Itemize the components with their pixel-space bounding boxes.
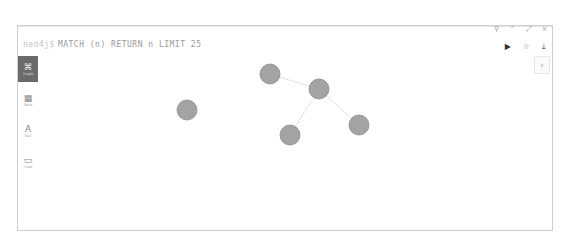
- sidebar-item-label: Table: [23, 103, 32, 108]
- query-prompt: neo4j$: [23, 40, 55, 49]
- close-icon[interactable]: ×: [541, 25, 548, 33]
- text-icon: A: [25, 124, 31, 134]
- pin-icon[interactable]: ⚲: [493, 25, 500, 33]
- sidebar-item-label: Code: [24, 165, 33, 170]
- sidebar-item-code[interactable]: ▭ Code: [18, 149, 38, 175]
- view-sidebar: ⌘ Graph ▦ Table A Text ▭ Code: [18, 56, 38, 176]
- download-icon[interactable]: ⤓: [542, 41, 546, 51]
- minimize-icon[interactable]: ⌃: [509, 25, 516, 33]
- query-editor[interactable]: neo4j$MATCH (n) RETURN n LIMIT 25: [23, 40, 201, 49]
- sidebar-item-label: Text: [24, 134, 31, 139]
- code-icon: ▭: [24, 155, 33, 165]
- table-icon: ▦: [24, 93, 33, 103]
- frame-top-border: [18, 26, 552, 27]
- window-controls: ⚲ ⌃ ⤢ ×: [493, 25, 548, 33]
- result-frame: ⚲ ⌃ ⤢ × neo4j$MATCH (n) RETURN n LIMIT 2…: [17, 25, 553, 231]
- sidebar-item-graph[interactable]: ⌘ Graph: [18, 56, 38, 82]
- graph-icon: ⌘: [24, 62, 33, 72]
- favorite-star-icon[interactable]: ☆: [523, 42, 530, 51]
- sidebar-item-label: Graph: [23, 72, 34, 77]
- chevron-left-icon: ‹: [540, 60, 544, 70]
- frame-actions: ▶ ☆ ⤓: [505, 41, 546, 51]
- sidebar-item-text[interactable]: A Text: [18, 118, 38, 144]
- query-text[interactable]: MATCH (n) RETURN n LIMIT 25: [58, 40, 202, 49]
- collapse-inspector-button[interactable]: ‹: [534, 56, 550, 74]
- sidebar-item-table[interactable]: ▦ Table: [18, 87, 38, 113]
- expand-icon[interactable]: ⤢: [525, 25, 532, 33]
- run-icon[interactable]: ▶: [505, 42, 511, 51]
